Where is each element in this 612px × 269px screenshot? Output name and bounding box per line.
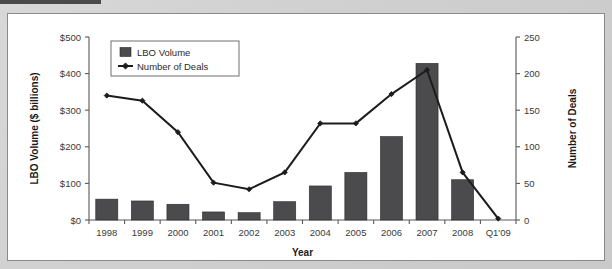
deals-marker-1998 (104, 93, 109, 98)
y-axis-left-tick-label: $400 (60, 68, 81, 79)
legend-swatch-lbo-volume (120, 48, 131, 57)
bar-2001 (203, 212, 225, 220)
x-axis-tick-label: 1998 (96, 227, 117, 238)
y-axis-left-title: LBO Volume ($ billions) (29, 72, 40, 184)
y-axis-left-tick-label: $500 (60, 32, 81, 43)
y-axis-right-tick-label: 50 (524, 178, 535, 189)
legend-label-lbo-volume: LBO Volume (137, 47, 190, 58)
bar-2002 (238, 213, 260, 220)
chart-panel: $0$100$200$300$400$500050100150200250199… (7, 13, 605, 261)
legend-label-number-of-deals: Number of Deals (137, 61, 209, 72)
x-axis-tick-label: 2001 (203, 227, 224, 238)
x-axis-tick-label: 2006 (381, 227, 402, 238)
y-axis-left-tick-label: $100 (60, 178, 81, 189)
y-axis-left-tick-label: $300 (60, 105, 81, 116)
bar-2005 (345, 172, 367, 220)
y-axis-right-title: Number of Deals (567, 88, 578, 168)
bar-2007 (416, 63, 438, 220)
chart-plot-area: $0$100$200$300$400$500050100150200250199… (8, 14, 604, 260)
y-axis-left-tick-label: $0 (70, 215, 81, 226)
y-axis-right-tick-label: 100 (524, 141, 540, 152)
x-axis-tick-label: Q1'09 (486, 227, 511, 238)
lbo-volume-deals-chart: $0$100$200$300$400$500050100150200250199… (8, 14, 606, 262)
x-axis-tick-label: 2003 (274, 227, 295, 238)
bar-2000 (167, 204, 189, 220)
bar-2003 (274, 202, 296, 220)
bar-2006 (380, 137, 402, 220)
x-axis-tick-label: 2008 (452, 227, 473, 238)
y-axis-left-tick-label: $200 (60, 141, 81, 152)
y-axis-right-tick-label: 250 (524, 32, 540, 43)
x-axis-tick-label: 2007 (416, 227, 437, 238)
x-axis-title: Year (292, 247, 313, 258)
y-axis-right-tick-label: 200 (524, 68, 540, 79)
x-axis-tick-label: 2004 (310, 227, 331, 238)
bar-1999 (131, 201, 153, 220)
top-dark-strip (0, 0, 101, 4)
bar-1998 (96, 199, 118, 220)
deals-line (107, 70, 498, 219)
bar-2008 (452, 180, 474, 220)
x-axis-tick-label: 2002 (239, 227, 260, 238)
bar-2004 (309, 186, 331, 220)
x-axis-tick-label: 2005 (345, 227, 366, 238)
y-axis-right-tick-label: 0 (524, 215, 529, 226)
x-axis-tick-label: 1999 (132, 227, 153, 238)
x-axis-tick-label: 2000 (167, 227, 188, 238)
y-axis-right-tick-label: 150 (524, 105, 540, 116)
